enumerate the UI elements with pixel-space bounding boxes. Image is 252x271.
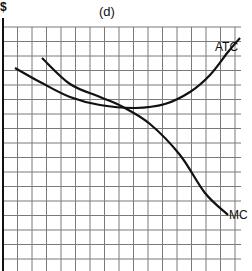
chart-title: (d) — [99, 4, 115, 19]
mc-label: MC — [229, 208, 248, 222]
mc-curve — [42, 58, 228, 215]
y-axis-label: $ — [0, 0, 7, 14]
atc-label: ATC — [215, 40, 238, 54]
grid-lines — [3, 27, 241, 271]
